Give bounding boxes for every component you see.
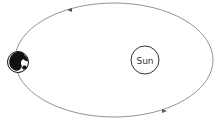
earth-icon [8,52,29,73]
sun: Sun [131,46,159,74]
orbit-diagram: Sun [0,0,220,124]
sun-label: Sun [136,56,153,66]
orbit-path [15,3,213,117]
